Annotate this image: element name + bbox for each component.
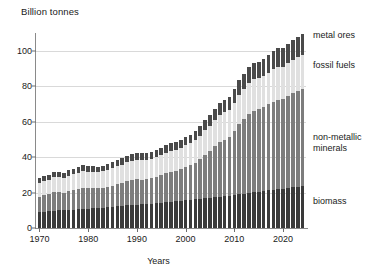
bar-column	[237, 80, 241, 228]
bar-segment-metal_ores	[189, 135, 193, 144]
bar-segment-metal_ores	[281, 48, 285, 66]
bar-column	[242, 74, 246, 228]
bar-segment-metal_ores	[135, 153, 139, 160]
bar-column	[179, 140, 183, 228]
bar-segment-fossil_fuels	[189, 143, 193, 165]
bar-segment-non_metallic_minerals	[125, 181, 129, 205]
stacked-bar-chart: Billion tonnes 020406080100 197019801990…	[0, 0, 377, 277]
bar-column	[174, 142, 178, 228]
bar-column	[276, 48, 280, 228]
bar-segment-fossil_fuels	[179, 148, 183, 169]
bar-segment-non_metallic_minerals	[42, 195, 46, 211]
bar-segment-non_metallic_minerals	[208, 151, 212, 198]
bar-segment-fossil_fuels	[81, 171, 85, 188]
bar-segment-biomass	[247, 193, 251, 228]
bar-segment-biomass	[91, 208, 95, 228]
bar-segment-metal_ores	[150, 152, 154, 159]
bar-segment-biomass	[228, 196, 232, 228]
bar-segment-biomass	[164, 202, 168, 228]
bar-column	[38, 178, 42, 228]
bar-column	[125, 156, 129, 229]
bar-segment-non_metallic_minerals	[272, 102, 276, 190]
bar-segment-non_metallic_minerals	[233, 131, 237, 195]
bar-segment-non_metallic_minerals	[237, 124, 241, 194]
bar-segment-fossil_fuels	[120, 165, 124, 183]
bar-segment-non_metallic_minerals	[213, 146, 217, 197]
bar-segment-biomass	[208, 198, 212, 228]
bar-segment-non_metallic_minerals	[257, 109, 261, 191]
bar-segment-non_metallic_minerals	[91, 188, 95, 208]
bar-segment-fossil_fuels	[150, 159, 154, 178]
bar-segment-fossil_fuels	[52, 177, 56, 192]
bar-column	[130, 154, 134, 228]
bar-segment-non_metallic_minerals	[184, 167, 188, 200]
bar-segment-metal_ores	[208, 115, 212, 126]
bar-column	[62, 173, 66, 228]
bar-segment-biomass	[203, 198, 207, 228]
bar-column	[57, 172, 61, 228]
bar-segment-biomass	[86, 209, 90, 228]
bar-segment-biomass	[198, 199, 202, 228]
bar-segment-non_metallic_minerals	[57, 192, 61, 210]
y-axis-title: Billion tonnes	[21, 6, 79, 17]
bar-segment-biomass	[135, 205, 139, 228]
bar-segment-fossil_fuels	[262, 76, 266, 107]
bar-segment-metal_ores	[233, 89, 237, 103]
bar-column	[194, 131, 198, 228]
bar-segment-metal_ores	[145, 153, 149, 160]
bar-segment-biomass	[242, 194, 246, 228]
bar-segment-biomass	[72, 210, 76, 228]
bar-column	[159, 148, 163, 228]
bar-segment-fossil_fuels	[140, 160, 144, 179]
legend-label-non-metallic-minerals: non-metallic	[313, 132, 362, 143]
bar-segment-fossil_fuels	[233, 103, 237, 131]
bar-segment-fossil_fuels	[91, 172, 95, 188]
bar-column	[281, 48, 285, 228]
bar-segment-metal_ores	[125, 156, 129, 163]
x-tick-mark	[39, 228, 40, 232]
bar-segment-fossil_fuels	[252, 79, 256, 110]
x-tick-mark	[234, 228, 235, 232]
bar-column	[67, 170, 71, 228]
bar-segment-non_metallic_minerals	[252, 111, 256, 193]
bar-column	[189, 135, 193, 228]
bar-segment-biomass	[155, 203, 159, 228]
bar-column	[77, 167, 81, 228]
bar-segment-non_metallic_minerals	[120, 183, 124, 206]
x-axis-line	[35, 228, 308, 229]
bar-segment-metal_ores	[194, 131, 198, 140]
x-tick-label: 2000	[176, 234, 196, 244]
bar-column	[228, 97, 232, 228]
bar-segment-metal_ores	[203, 120, 207, 130]
bar-segment-biomass	[276, 189, 280, 228]
bar-segment-biomass	[184, 200, 188, 228]
bar-segment-fossil_fuels	[125, 162, 129, 181]
bar-series-group	[36, 33, 306, 228]
bar-segment-biomass	[130, 205, 134, 228]
legend-label-fossil-fuels: fossil fuels	[313, 60, 355, 71]
bar-segment-fossil_fuels	[38, 183, 42, 196]
bar-segment-non_metallic_minerals	[228, 137, 232, 196]
bar-segment-biomass	[140, 204, 144, 228]
bar-column	[291, 40, 295, 228]
bar-segment-non_metallic_minerals	[281, 99, 285, 189]
bar-segment-non_metallic_minerals	[140, 180, 144, 205]
bar-segment-biomass	[233, 195, 237, 228]
bar-segment-non_metallic_minerals	[145, 179, 149, 204]
bar-segment-non_metallic_minerals	[223, 140, 227, 196]
bar-column	[247, 67, 251, 228]
bar-segment-fossil_fuels	[296, 57, 300, 91]
bar-segment-metal_ores	[169, 143, 173, 151]
bar-segment-biomass	[47, 211, 51, 228]
bar-segment-biomass	[52, 211, 56, 228]
bar-segment-metal_ores	[130, 154, 134, 161]
bar-segment-metal_ores	[155, 150, 159, 157]
bar-segment-non_metallic_minerals	[130, 180, 134, 205]
bar-segment-non_metallic_minerals	[77, 189, 81, 209]
bar-segment-fossil_fuels	[111, 168, 115, 186]
bar-column	[155, 150, 159, 228]
bar-column	[257, 62, 261, 228]
bar-segment-metal_ores	[267, 55, 271, 73]
bar-segment-metal_ores	[296, 37, 300, 57]
y-tick-label: 80	[22, 81, 32, 91]
